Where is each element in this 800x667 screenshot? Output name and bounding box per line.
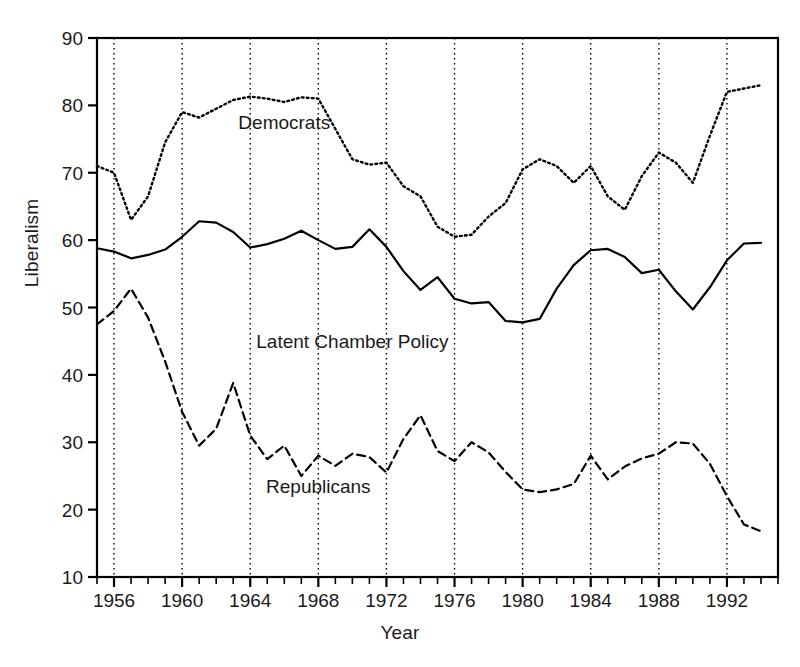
chart-figure: 1020304050607080901956196019641968197219…: [0, 0, 800, 667]
data-series-group: [97, 85, 761, 531]
x-tick-label: 1956: [93, 590, 135, 611]
y-axis-title: Liberalism: [21, 183, 43, 303]
series-line-latent-chamber-policy: [97, 221, 761, 322]
y-tick-label: 30: [62, 432, 83, 453]
series-label-latent-chamber-policy: Latent Chamber Policy: [256, 331, 449, 352]
series-line-democrats: [97, 85, 761, 237]
gridlines-group: [114, 38, 727, 577]
x-tick-label: 1968: [297, 590, 339, 611]
tick-labels-group: 1020304050607080901956196019641968197219…: [62, 28, 748, 611]
y-tick-label: 10: [62, 567, 83, 588]
x-axis-title: Year: [0, 622, 800, 644]
x-tick-label: 1992: [706, 590, 748, 611]
y-tick-label: 40: [62, 365, 83, 386]
series-label-republicans: Republicans: [266, 476, 371, 497]
x-tick-label: 1964: [229, 590, 272, 611]
line-chart-canvas: 1020304050607080901956196019641968197219…: [0, 0, 800, 667]
y-tick-label: 90: [62, 28, 83, 49]
series-label-democrats: Democrats: [238, 112, 330, 133]
x-tick-label: 1984: [570, 590, 613, 611]
axes-spines-group: [97, 38, 778, 577]
plot-frame: [97, 38, 778, 577]
x-tick-label: 1988: [638, 590, 680, 611]
series-line-republicans: [97, 289, 761, 532]
x-tick-label: 1976: [433, 590, 475, 611]
x-tick-label: 1980: [501, 590, 543, 611]
y-tick-label: 50: [62, 298, 83, 319]
x-tick-label: 1960: [161, 590, 203, 611]
y-tick-label: 60: [62, 230, 83, 251]
axis-ticks-group: [88, 38, 778, 587]
series-labels-group: DemocratsLatent Chamber PolicyRepublican…: [238, 112, 449, 497]
y-tick-label: 20: [62, 500, 83, 521]
y-tick-label: 80: [62, 95, 83, 116]
x-tick-label: 1972: [365, 590, 407, 611]
y-tick-label: 70: [62, 163, 83, 184]
